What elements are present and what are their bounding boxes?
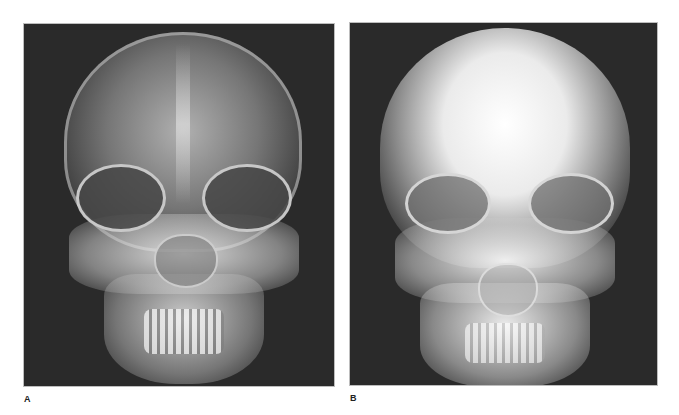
nasal-cavity xyxy=(154,234,218,288)
xray-panel-b xyxy=(349,22,658,386)
right-orbit xyxy=(528,173,614,234)
sagittal-midline xyxy=(176,44,190,204)
nasal-cavity xyxy=(478,263,538,317)
left-orbit xyxy=(405,173,491,234)
teeth xyxy=(465,323,545,363)
teeth xyxy=(144,309,224,354)
panel-label-a: A xyxy=(24,394,31,404)
xray-panel-a xyxy=(23,23,335,387)
panel-label-b: B xyxy=(350,393,357,403)
right-orbit xyxy=(202,164,292,232)
left-orbit xyxy=(76,164,166,232)
